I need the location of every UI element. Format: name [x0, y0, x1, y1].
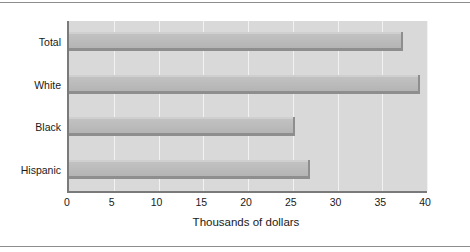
figure-bottom-rule	[0, 246, 470, 247]
gridline-40	[427, 21, 428, 191]
x-axis-tick-40: 40	[419, 196, 431, 208]
plot-area	[67, 21, 427, 193]
bar-row	[69, 64, 427, 107]
y-axis-category-labels: TotalWhiteBlackHispanic	[0, 21, 61, 191]
figure-top-rule	[0, 2, 470, 3]
x-axis-tick-10: 10	[151, 196, 163, 208]
y-axis-label-total: Total	[0, 21, 61, 64]
bar-hispanic	[69, 160, 310, 179]
x-axis-tick-15: 15	[195, 196, 207, 208]
x-axis-tick-35: 35	[374, 196, 386, 208]
bar-black	[69, 117, 295, 136]
x-axis-tick-30: 30	[330, 196, 342, 208]
chart-figure: TotalWhiteBlackHispanic 0510152025303540…	[0, 0, 470, 252]
bar-row	[69, 21, 427, 64]
bar-white	[69, 75, 420, 94]
bar-row	[69, 149, 427, 192]
y-axis-label-white: White	[0, 64, 61, 107]
y-axis-label-hispanic: Hispanic	[0, 149, 61, 192]
x-axis-tick-0: 0	[64, 196, 70, 208]
x-axis-tick-25: 25	[285, 196, 297, 208]
y-axis-label-black: Black	[0, 106, 61, 149]
x-axis-tick-20: 20	[240, 196, 252, 208]
x-axis-title: Thousands of dollars	[67, 216, 425, 228]
bar-series	[69, 21, 427, 191]
bar-total	[69, 32, 403, 51]
bar-row	[69, 106, 427, 149]
x-axis-tick-5: 5	[109, 196, 115, 208]
x-axis-tick-labels: 0510152025303540	[67, 196, 425, 210]
